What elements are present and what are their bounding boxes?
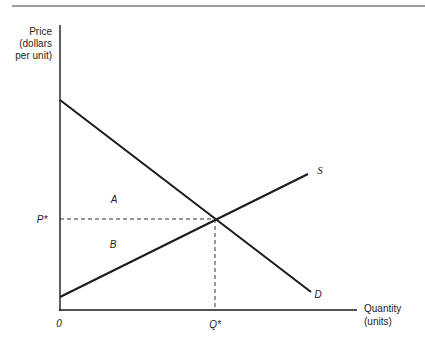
y-axis-label-line1: Price — [29, 26, 52, 37]
equilibrium-price-label: P* — [37, 214, 49, 225]
supply-curve — [60, 174, 308, 297]
y-axis-label-line3: per unit) — [15, 50, 52, 61]
x-axis-label-line2: (units) — [364, 316, 392, 327]
demand-curve — [60, 100, 311, 292]
y-axis-label-line2: (dollars — [19, 38, 52, 49]
x-axis-label-line1: Quantity — [364, 303, 401, 314]
equilibrium-quantity-label: Q* — [209, 319, 222, 330]
demand-label: D — [314, 289, 321, 300]
area-a-label: A — [110, 194, 118, 205]
origin-label: 0 — [56, 318, 62, 329]
supply-label: S — [317, 164, 323, 176]
area-b-label: B — [110, 239, 117, 250]
supply-demand-diagram: Price (dollars per unit) Quantity (units… — [0, 0, 425, 346]
